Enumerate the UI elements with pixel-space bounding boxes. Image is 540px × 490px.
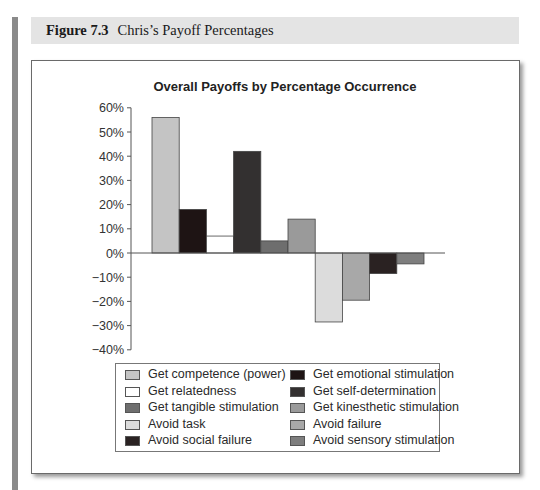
legend: Get competence (power)Get emotional stim…: [115, 363, 440, 452]
y-tick-label: 20%: [99, 198, 124, 212]
legend-label: Avoid sensory stimulation: [313, 433, 455, 447]
legend-swatch: [125, 436, 140, 446]
legend-label: Get relatedness: [148, 384, 236, 398]
legend-label: Get emotional stimulation: [313, 367, 454, 381]
legend-swatch: [125, 370, 140, 380]
y-tick-label: 10%: [99, 222, 124, 236]
y-tick-label: −40%: [92, 343, 124, 357]
legend-label: Get tangible stimulation: [148, 400, 279, 414]
bar-avoid-sensory-stimulation: [397, 253, 424, 264]
bar-get-emotional-stimulation: [179, 209, 206, 253]
legend-swatch: [125, 403, 140, 413]
y-tick-label: 60%: [99, 101, 124, 115]
y-tick-label: −10%: [92, 271, 124, 285]
legend-swatch: [290, 420, 305, 430]
bar-avoid-task: [315, 253, 342, 322]
legend-label: Get competence (power): [148, 367, 286, 381]
bar-get-tangible-stimulation: [261, 241, 288, 253]
y-tick-label: −30%: [92, 319, 124, 333]
y-axis: 60%50%40%30%20%10%0%−10%−20%−30%−40%: [92, 101, 131, 357]
legend-label: Get self-determination: [313, 384, 436, 398]
legend-label: Avoid social failure: [148, 433, 252, 447]
legend-label: Avoid task: [148, 417, 205, 431]
bar-get-kinesthetic-stimulation: [288, 219, 315, 253]
y-tick-label: 50%: [99, 126, 124, 140]
bar-avoid-failure: [342, 253, 369, 300]
legend-swatch: [125, 387, 140, 397]
legend-swatch: [125, 420, 140, 430]
y-tick-label: −20%: [92, 295, 124, 309]
legend-swatch: [290, 403, 305, 413]
legend-label: Get kinesthetic stimulation: [313, 400, 459, 414]
legend-swatch: [290, 387, 305, 397]
y-tick-label: 0%: [106, 247, 124, 261]
legend-swatch: [290, 436, 305, 446]
legend-swatch: [290, 370, 305, 380]
y-tick-label: 40%: [99, 150, 124, 164]
bar-get-relatedness: [206, 236, 233, 253]
y-tick-label: 30%: [99, 174, 124, 188]
legend-label: Avoid failure: [313, 417, 382, 431]
bar-get-self-determination: [234, 151, 261, 253]
bar-get-competence-power: [152, 117, 179, 253]
bars: [152, 117, 424, 321]
bar-avoid-social-failure: [370, 253, 397, 274]
